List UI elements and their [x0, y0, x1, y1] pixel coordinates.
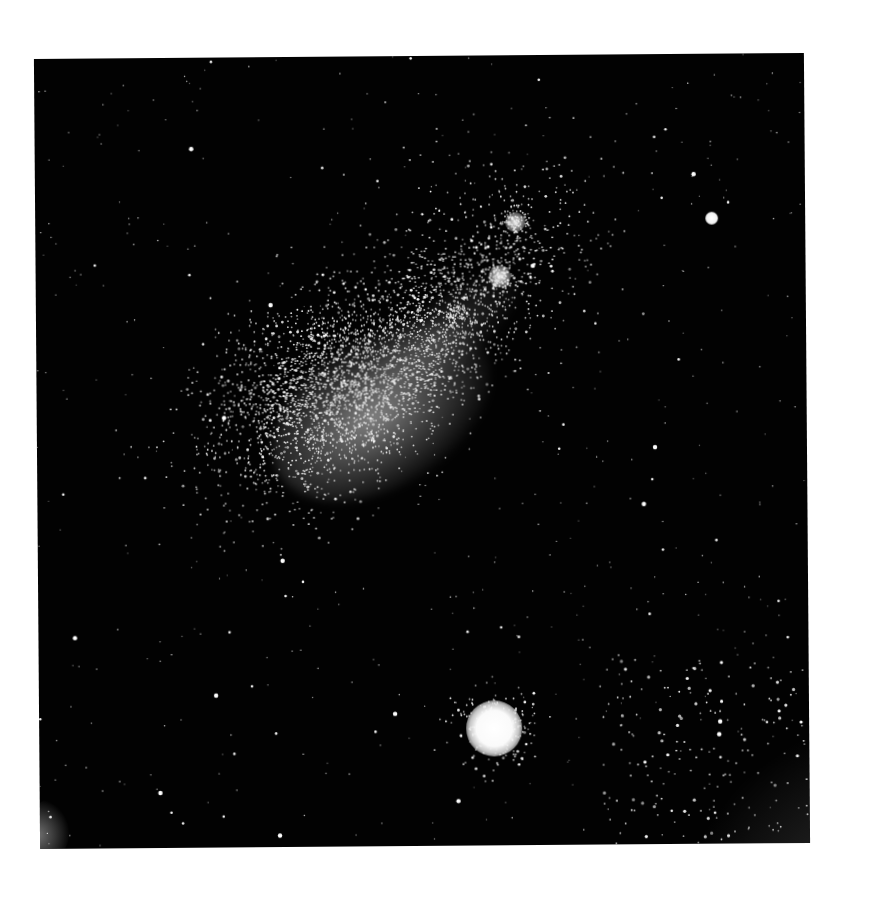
astronomical-photo-plate	[34, 53, 810, 849]
star-field	[34, 53, 810, 849]
